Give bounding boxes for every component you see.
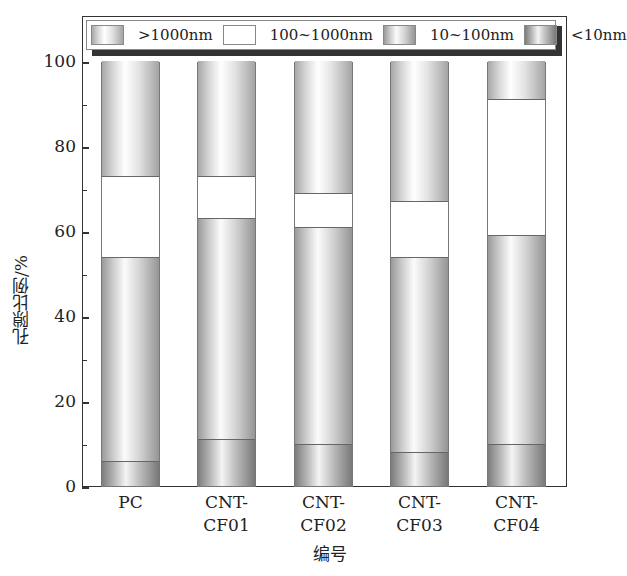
seg-lt10 [198, 439, 255, 486]
y-tick [82, 317, 89, 319]
legend-item-gt1000: >1000nm [87, 25, 213, 45]
legend-label: <10nm [571, 26, 627, 44]
y-tick [82, 360, 87, 362]
seg-gt1000 [102, 61, 159, 176]
y-tick [82, 402, 89, 404]
y-tick-label: 40 [36, 306, 76, 326]
y-tick-label: 60 [36, 221, 76, 241]
seg-10-100 [198, 218, 255, 439]
seg-100-1000 [488, 99, 545, 235]
seg-gt1000 [391, 61, 448, 201]
y-tick [82, 147, 89, 149]
seg-lt10 [295, 444, 352, 487]
bar-cnt-cf04 [487, 62, 546, 487]
y-tick [82, 190, 87, 192]
seg-10-100 [488, 235, 545, 443]
seg-10-100 [295, 227, 352, 444]
x-axis-title: 编号 [290, 540, 370, 565]
seg-lt10 [102, 461, 159, 487]
seg-gt1000 [488, 61, 545, 99]
x-tick-label: PC [86, 491, 176, 514]
y-tick-label: 0 [36, 476, 76, 496]
y-tick [82, 445, 87, 447]
bar-cnt-cf03 [390, 62, 449, 487]
bar-pc [101, 62, 160, 487]
seg-lt10 [488, 444, 545, 487]
seg-lt10 [391, 452, 448, 486]
seg-100-1000 [391, 201, 448, 256]
legend-label: 100~1000nm [270, 26, 373, 44]
x-tick-label: CNT-CF04 [472, 491, 562, 537]
x-tick-label: CNT-CF01 [182, 491, 272, 537]
legend-swatch-100-1000 [223, 25, 256, 45]
seg-10-100 [391, 257, 448, 453]
legend-swatch-gt1000 [91, 25, 124, 45]
bar-cnt-cf01 [197, 62, 256, 487]
y-axis-title: 孔隙比例/% [8, 210, 32, 390]
y-tick-label: 100 [36, 51, 76, 71]
seg-100-1000 [295, 193, 352, 227]
legend-item-10-100: 10~100nm [379, 25, 514, 45]
legend-swatch-10-100 [383, 25, 416, 45]
seg-gt1000 [198, 61, 255, 176]
seg-gt1000 [295, 61, 352, 193]
seg-10-100 [102, 257, 159, 461]
legend-item-lt10: <10nm [520, 25, 627, 45]
y-tick [82, 62, 89, 64]
seg-100-1000 [102, 176, 159, 257]
y-tick-label: 20 [36, 391, 76, 411]
x-tick-label: CNT-CF03 [375, 491, 465, 537]
y-tick [82, 105, 87, 107]
legend-label: >1000nm [138, 26, 213, 44]
x-tick-label: CNT-CF02 [279, 491, 369, 537]
legend-swatch-lt10 [524, 25, 557, 45]
bar-cnt-cf02 [294, 62, 353, 487]
legend-item-100-1000: 100~1000nm [219, 25, 373, 45]
y-tick-label: 80 [36, 136, 76, 156]
legend-label: 10~100nm [430, 26, 514, 44]
y-tick [82, 487, 89, 489]
y-tick [82, 232, 89, 234]
seg-100-1000 [198, 176, 255, 219]
legend: >1000nm 100~1000nm 10~100nm <10nm [86, 20, 556, 50]
y-tick [82, 275, 87, 277]
